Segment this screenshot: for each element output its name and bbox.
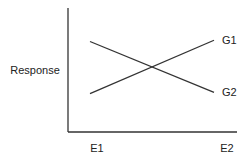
x-tick-label-e1: E1 (90, 142, 103, 154)
interaction-plot: Response E1E2 G1G2 (0, 0, 246, 160)
series-label-g1: G1 (222, 34, 237, 46)
x-tick-label-e2: E2 (220, 142, 233, 154)
y-axis-label: Response (10, 64, 60, 76)
series-label-g2: G2 (222, 86, 237, 98)
series-line-g2 (90, 41, 214, 92)
